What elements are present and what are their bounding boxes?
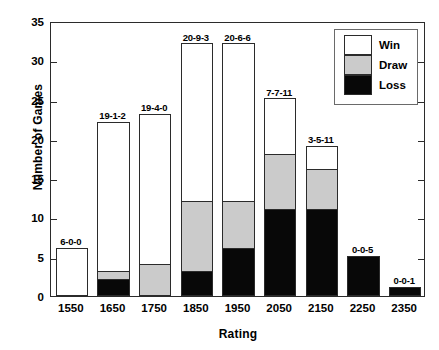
bar-value-label: 3-5-11 xyxy=(308,134,334,145)
legend-label-win: Win xyxy=(379,39,400,51)
bar-segment-win xyxy=(181,43,214,201)
y-axis-tick-label: 35 xyxy=(4,16,44,28)
bar-segment-draw xyxy=(264,153,297,209)
bar-value-label: 19-4-0 xyxy=(141,102,167,113)
y-axis-tick-label: 20 xyxy=(4,134,44,146)
bar-value-label: 20-9-3 xyxy=(183,32,209,43)
bar-value-label: 6-0-0 xyxy=(60,236,81,247)
x-axis-tick-label: 1850 xyxy=(183,302,209,314)
x-axis-tick-label: 2050 xyxy=(266,302,292,314)
y-axis-tick-label: 5 xyxy=(4,252,44,264)
bar-value-label: 19-1-2 xyxy=(99,110,125,121)
bar-2350 xyxy=(389,288,422,296)
bar-2050 xyxy=(264,100,297,296)
bar-1850 xyxy=(181,45,214,296)
y-axis-tick-mark xyxy=(51,219,57,220)
bar-segment-win xyxy=(264,98,297,154)
legend-entry-win: Win xyxy=(344,35,414,55)
x-axis-tick-label: 1650 xyxy=(100,302,126,314)
legend-swatch-draw xyxy=(344,55,372,75)
x-axis-tick-label: 2350 xyxy=(391,302,417,314)
y-axis-tick-label: 25 xyxy=(4,95,44,107)
legend-label-loss: Loss xyxy=(379,79,406,91)
y-axis-tick-mark xyxy=(51,102,57,103)
bar-segment-win xyxy=(97,122,130,272)
bar-segment-draw xyxy=(139,263,172,296)
bar-segment-win xyxy=(306,146,339,171)
y-axis-tick-label: 0 xyxy=(4,291,44,303)
y-axis-tick-label: 10 xyxy=(4,212,44,224)
legend-label-draw: Draw xyxy=(379,59,407,71)
x-axis-tick-label: 1750 xyxy=(141,302,167,314)
bar-2150 xyxy=(306,147,339,296)
y-axis-tick-mark xyxy=(418,62,424,63)
bar-value-label: 7-7-11 xyxy=(266,87,292,98)
bar-segment-loss xyxy=(97,279,130,296)
y-axis-tick-mark xyxy=(51,62,57,63)
y-axis-tick-mark xyxy=(51,141,57,142)
bar-1650 xyxy=(97,123,130,296)
y-axis-tick-mark xyxy=(418,141,424,142)
bar-segment-draw xyxy=(306,169,339,209)
legend-entry-loss: Loss xyxy=(344,75,414,95)
bar-segment-loss xyxy=(347,256,380,296)
bar-segment-draw xyxy=(181,201,214,273)
y-axis-tick-mark xyxy=(418,259,424,260)
bar-segment-draw xyxy=(222,201,255,249)
bar-2250 xyxy=(347,257,380,296)
bar-segment-win xyxy=(139,114,172,264)
bar-1750 xyxy=(139,115,172,296)
bar-segment-win xyxy=(222,43,255,201)
bar-segment-draw xyxy=(97,271,130,280)
legend-swatch-loss xyxy=(344,75,372,95)
y-axis-tick-mark xyxy=(418,219,424,220)
y-axis-tick-label: 30 xyxy=(4,55,44,67)
chart-legend: Win Draw Loss xyxy=(334,29,418,105)
legend-swatch-win xyxy=(344,35,372,55)
x-axis-tick-label: 1550 xyxy=(58,302,84,314)
legend-entry-draw: Draw xyxy=(344,55,414,75)
bar-value-label: 0-0-1 xyxy=(394,275,415,286)
x-axis-title: Rating xyxy=(50,327,426,341)
x-axis-tick-label: 1950 xyxy=(225,302,251,314)
y-axis-tick-mark xyxy=(418,180,424,181)
y-axis-tick-mark xyxy=(51,180,57,181)
bar-segment-loss xyxy=(222,248,255,296)
bar-segment-loss xyxy=(306,208,339,296)
y-axis-tick-mark xyxy=(418,102,424,103)
x-axis-tick-label: 2250 xyxy=(350,302,376,314)
bar-value-label: 20-6-6 xyxy=(224,32,250,43)
bar-value-label: 0-0-5 xyxy=(352,244,373,255)
bar-1950 xyxy=(222,45,255,296)
bar-segment-win xyxy=(56,248,89,296)
bar-segment-loss xyxy=(264,208,297,296)
chart-figure: Number of Games Rating Win Draw Loss 051… xyxy=(0,0,439,350)
x-axis-tick-label: 2150 xyxy=(308,302,334,314)
y-axis-tick-label: 15 xyxy=(4,173,44,185)
bar-1550 xyxy=(56,249,89,296)
bar-segment-loss xyxy=(389,287,422,296)
bar-segment-loss xyxy=(181,271,214,296)
